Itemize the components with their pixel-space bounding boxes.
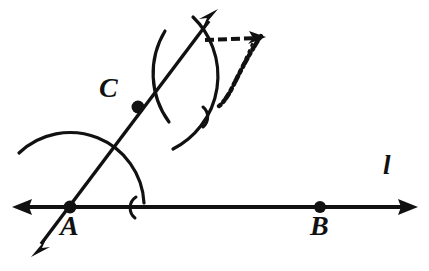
point-c-dot [132, 101, 145, 114]
point-a-label: A [60, 212, 79, 240]
point-b-label: B [310, 212, 329, 240]
line-l-arrowhead-left [12, 199, 32, 215]
dashed-arrow-shaft [205, 38, 258, 40]
point-c-label: C [99, 74, 118, 102]
line-l-label: l [383, 152, 391, 179]
ray-ac-arrowhead-lower [31, 239, 50, 257]
line-l-arrowhead-right [398, 199, 418, 215]
geometry-diagram: A B C l [0, 0, 429, 271]
